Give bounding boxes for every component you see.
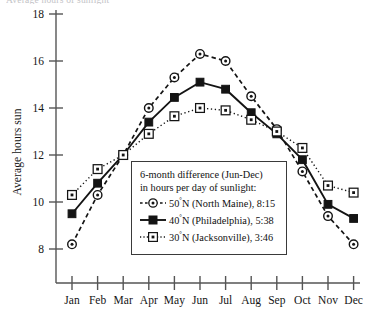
data-point <box>170 112 179 121</box>
x-tick-label-mar: Mar <box>114 294 133 306</box>
legend-label-40n: 40°N (Philadelphia), 5:38 <box>169 214 274 226</box>
x-tick-label-nov: Nov <box>318 294 338 306</box>
data-point <box>171 94 179 102</box>
y-tick-label: 18 <box>33 8 45 20</box>
data-point <box>196 78 204 86</box>
y-tick-label: 14 <box>33 102 45 114</box>
legend-title-line-2: in hours per day of sunlight: <box>140 181 279 194</box>
data-point <box>196 50 205 59</box>
data-point <box>68 191 77 200</box>
x-tick-label-oct: Oct <box>294 294 311 306</box>
legend-item-30n: 30°N (Jacksonville), 3:46 <box>140 229 279 246</box>
x-tick-label-jul: Jul <box>219 294 232 306</box>
sunlight-hours-chart: Average hours of sunlight 81012141618Jan… <box>0 0 366 317</box>
data-point <box>324 212 333 221</box>
chart-plot-area: 81012141618JanFebMarAprMayJunJulAugSepOc… <box>0 0 366 317</box>
data-point <box>247 92 256 101</box>
data-point <box>349 188 358 197</box>
data-point <box>93 191 102 200</box>
x-tick-label-jan: Jan <box>64 294 80 306</box>
data-point <box>247 115 256 124</box>
legend-label-30n: 30°N (Jacksonville), 3:46 <box>169 231 273 243</box>
x-tick-label-may: May <box>164 294 185 307</box>
data-point <box>145 118 153 126</box>
legend-item-50n: 50°N (North Maine), 8:15 <box>140 195 279 212</box>
x-tick-label-aug: Aug <box>241 294 261 307</box>
data-point <box>196 104 205 113</box>
data-point <box>324 200 332 208</box>
data-point <box>222 85 230 93</box>
data-point <box>221 57 230 66</box>
legend-item-40n: 40°N (Philadelphia), 5:38 <box>140 212 279 229</box>
x-tick-label-sep: Sep <box>268 294 286 307</box>
data-point <box>144 129 153 138</box>
legend-marker-open-square-dot-icon <box>140 230 166 244</box>
data-point <box>94 179 102 187</box>
data-point <box>93 165 102 174</box>
y-tick-label: 10 <box>33 196 45 208</box>
data-point <box>299 156 307 164</box>
legend-lat-40: 40 <box>169 216 179 227</box>
legend-loc-50: N (North Maine), 8:15 <box>182 199 275 210</box>
x-tick-label-feb: Feb <box>89 294 107 306</box>
data-point <box>324 181 333 190</box>
data-point <box>349 240 358 249</box>
data-point <box>221 106 230 115</box>
data-point <box>145 104 154 113</box>
legend-title-line-1: 6-month difference (Jun-Dec) <box>140 168 279 181</box>
y-tick-label: 16 <box>33 55 45 67</box>
legend-loc-40: N (Philadelphia), 5:38 <box>182 216 274 227</box>
degree-symbol-icon: ° <box>179 230 182 237</box>
legend-lat-30: 30 <box>169 233 179 244</box>
y-axis-title: Average hours sun <box>11 108 24 195</box>
x-tick-label-jun: Jun <box>192 294 208 306</box>
y-tick-label: 12 <box>33 149 45 161</box>
data-point <box>350 215 358 223</box>
x-tick-label-apr: Apr <box>140 294 158 307</box>
legend-lat-50: 50 <box>169 199 179 210</box>
data-point <box>298 167 307 176</box>
legend-loc-30: N (Jacksonville), 3:46 <box>182 233 273 244</box>
x-tick-label-dec: Dec <box>344 294 363 306</box>
legend-marker-filled-square-icon <box>140 213 166 227</box>
degree-symbol-icon: ° <box>179 213 182 220</box>
y-tick-label: 8 <box>38 243 44 255</box>
chart-legend: 6-month difference (Jun-Dec) in hours pe… <box>131 161 287 255</box>
data-point <box>68 240 77 249</box>
data-point <box>68 210 76 218</box>
data-point <box>272 127 281 136</box>
legend-label-50n: 50°N (North Maine), 8:15 <box>169 197 275 209</box>
data-point <box>119 151 128 160</box>
legend-marker-circle-dot-icon <box>140 196 166 210</box>
data-point <box>170 73 179 82</box>
data-point <box>298 144 307 153</box>
axis-labels: 81012141618JanFebMarAprMayJunJulAugSepOc… <box>11 8 363 307</box>
degree-symbol-icon: ° <box>179 196 182 203</box>
